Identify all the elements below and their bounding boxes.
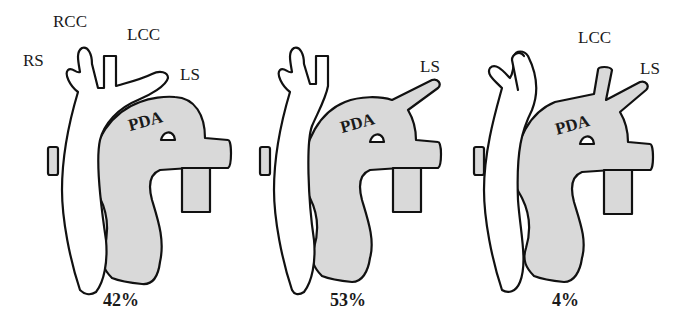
percentage-label: 42%: [103, 290, 139, 310]
label-lcc: LCC: [127, 25, 160, 44]
label-rs: RS: [23, 51, 44, 70]
percentage-label: 53%: [330, 290, 366, 310]
descending-stub: [393, 168, 421, 212]
label-ls: LS: [640, 59, 660, 78]
right-stub: [260, 147, 270, 175]
label-rcc: RCC: [53, 12, 87, 31]
percentage-label: 4%: [552, 290, 579, 310]
panel-1: PDA RS RCC LCC LS 42%: [23, 12, 231, 310]
label-lcc: LCC: [578, 28, 611, 47]
label-ls: LS: [180, 65, 200, 84]
panel-3: PDA LCC LS 4%: [474, 28, 660, 310]
panel-2: PDA LS 53%: [260, 48, 441, 310]
label-ls: LS: [420, 57, 440, 76]
right-stub: [474, 147, 484, 175]
right-stub: [48, 147, 58, 175]
descending-stub: [604, 170, 632, 214]
descending-stub: [182, 168, 210, 212]
aortic-arch-figure: PDA RS RCC LCC LS 42% PDA LS 53% PDA LCC…: [0, 0, 694, 320]
